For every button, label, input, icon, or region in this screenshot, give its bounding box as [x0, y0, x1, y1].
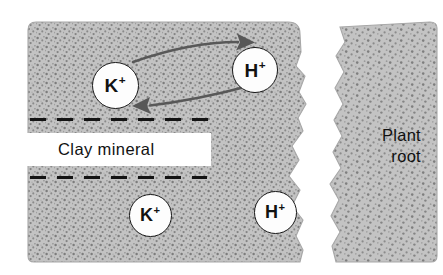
- plant-root-label-line2: root: [347, 146, 421, 167]
- ion-k-lower[interactable]: K+: [129, 194, 172, 237]
- figure-canvas: K+ H+ K+ H+ Clay mineral Plant root: [0, 0, 443, 275]
- ion-k-lower-label: K+: [140, 206, 160, 224]
- ion-h-lower[interactable]: H+: [254, 191, 297, 234]
- ion-h-upper-label: H+: [244, 60, 265, 79]
- clay-mineral-label-band: Clay mineral: [0, 133, 211, 166]
- ion-k-upper-label: K+: [104, 75, 125, 94]
- ion-k-upper[interactable]: K+: [92, 62, 139, 109]
- clay-mineral-label: Clay mineral: [58, 140, 155, 159]
- plant-root-label-line1: Plant: [347, 125, 421, 146]
- ion-h-lower-label: H+: [265, 203, 285, 221]
- ion-h-upper[interactable]: H+: [232, 47, 278, 93]
- plant-root-label: Plant root: [347, 125, 421, 167]
